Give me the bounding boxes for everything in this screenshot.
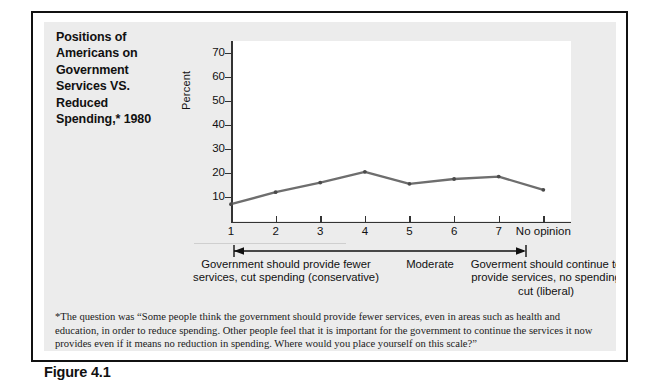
scale-arrow-icon [194, 243, 616, 259]
scale-caption-liberal: Goverment should continue to provide ser… [466, 258, 616, 298]
figure-number-label: Figure 4.1 [44, 364, 111, 380]
x-tick-mark [543, 216, 544, 222]
data-point-marker [363, 170, 367, 174]
x-tick-label: 5 [406, 225, 412, 237]
chart-title-line-1: Positions of [56, 29, 206, 45]
data-point-marker [274, 190, 278, 194]
x-tick-mark [320, 216, 321, 222]
x-tick-label: 6 [451, 225, 457, 237]
y-tick-mark [225, 53, 231, 54]
footnote-question: *The question was “Some people think the… [55, 310, 605, 351]
data-point-marker [541, 188, 545, 192]
x-tick-label: No opinion [516, 225, 571, 237]
data-point-marker [452, 177, 456, 181]
x-tick-label: 2 [272, 225, 278, 237]
data-point-marker [229, 202, 233, 206]
y-tick-mark [225, 197, 231, 198]
x-tick-mark [365, 216, 366, 222]
x-tick-label: 3 [317, 225, 323, 237]
y-tick-mark [225, 125, 231, 126]
chart-title-line-2: Americans on [56, 45, 206, 61]
x-tick-label: 4 [362, 225, 368, 237]
data-point-marker [408, 182, 412, 186]
y-tick-mark [225, 149, 231, 150]
scale-caption-moderate: Moderate [384, 258, 476, 271]
data-line [231, 172, 543, 204]
y-tick-mark [225, 77, 231, 78]
data-point-marker [497, 175, 501, 179]
x-tick-mark [454, 216, 455, 222]
footnote-block: *The question was “Some people think the… [55, 310, 605, 351]
x-tick-mark [231, 216, 232, 222]
x-tick-mark [409, 216, 410, 222]
x-tick-mark [276, 216, 277, 222]
x-tick-mark [499, 216, 500, 222]
scale-caption-conservative: Government should provide fewer services… [191, 258, 381, 285]
y-axis-label: Percent [180, 71, 192, 110]
y-tick-mark [225, 173, 231, 174]
data-point-marker [318, 181, 322, 185]
line-chart: Percent 10203040506070 Government should… [194, 22, 616, 351]
x-tick-label: 7 [496, 225, 502, 237]
figure-panel: Positions of Americans on Government Ser… [44, 22, 616, 351]
chart-title-line-6: Spending,* 1980 [56, 111, 206, 127]
x-tick-label: 1 [228, 225, 234, 237]
scale-annotation: Government should provide fewer services… [194, 243, 616, 313]
y-tick-mark [225, 101, 231, 102]
